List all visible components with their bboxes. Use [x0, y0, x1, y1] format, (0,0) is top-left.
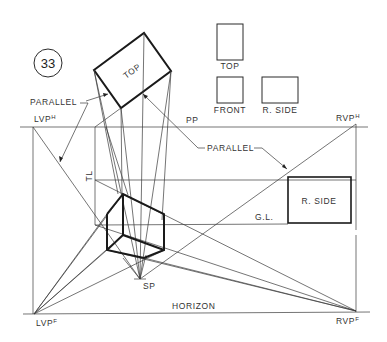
projector-line: [162, 71, 171, 220]
horizon-label: HORIZON: [172, 301, 215, 311]
orthographic-views: TOP FRONT R. SIDE: [214, 24, 298, 115]
projector-line: [121, 108, 122, 194]
perspective-box: [107, 194, 164, 258]
vanishing-line-left: [34, 250, 107, 314]
arrowhead-icon: [103, 93, 108, 97]
projector-line: [106, 127, 128, 195]
perspective-drawing: 33 TOP TOP FRONT R. SIDE PP LVPH RVPH HO…: [0, 0, 387, 342]
horizon-line: [23, 312, 370, 314]
sp-label: SP: [143, 281, 156, 291]
parallel-right-label: PARALLEL: [207, 143, 254, 153]
rvph-label: RVPH: [336, 113, 360, 123]
parallel-right-leader: [254, 148, 287, 169]
box-bottom-left-edge: [107, 235, 123, 250]
parallel-left-label: PARALLEL: [30, 97, 77, 107]
box-bottom-right-edge: [123, 235, 164, 250]
vanishing-line-left: [34, 214, 107, 314]
rotated-top-view: TOP: [94, 33, 171, 108]
figure-number: 33: [41, 56, 55, 71]
ortho-top-label: TOP: [220, 61, 239, 71]
lvph-label: LVPH: [34, 114, 56, 124]
parallel-left-leader: [60, 103, 88, 162]
right-side-elevation-label: R. SIDE: [302, 196, 337, 206]
ortho-front-label: FRONT: [214, 105, 246, 115]
vanishing-line-right: [95, 225, 356, 311]
box-outline: [107, 194, 164, 258]
figure-number-badge: 33: [34, 49, 62, 77]
tl-label: TL: [84, 170, 94, 181]
rvpf-label: RVPF: [336, 316, 359, 326]
ortho-right-side-label: R. SIDE: [263, 105, 298, 115]
ortho-front-box: [217, 77, 243, 103]
gl-label: G.L.: [255, 212, 273, 222]
pp-label: PP: [186, 115, 199, 125]
arrowhead-icon: [282, 164, 287, 169]
lvpf-label: LVPF: [36, 318, 58, 328]
projector-line: [95, 108, 121, 127]
ortho-top-box: [217, 24, 243, 60]
ortho-right-side-box: [262, 77, 298, 103]
top-view-label: TOP: [121, 61, 142, 80]
